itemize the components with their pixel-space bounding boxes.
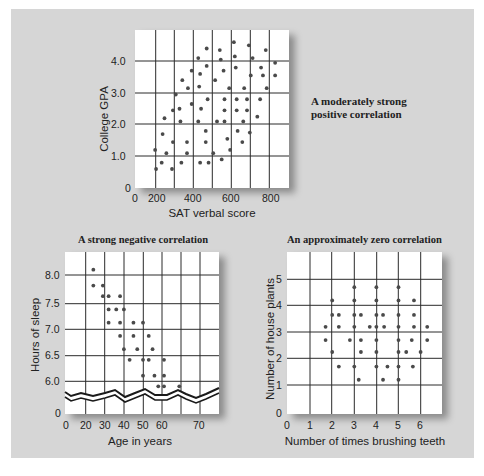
- data-point: [265, 86, 269, 90]
- data-point: [211, 151, 215, 155]
- data-point: [397, 338, 401, 342]
- data-point: [397, 365, 401, 369]
- data-point: [132, 321, 136, 325]
- data-point: [236, 129, 240, 133]
- y-tick-label: 4: [276, 300, 282, 311]
- data-point: [186, 86, 190, 90]
- data-point: [128, 358, 132, 362]
- y-tick-label: 7.5: [45, 298, 60, 309]
- data-point: [352, 313, 356, 317]
- x-tick-label: 600: [222, 193, 240, 204]
- data-point: [324, 325, 328, 329]
- data-point: [381, 378, 385, 382]
- x-tick-label: 400: [184, 193, 202, 204]
- data-point: [412, 313, 416, 317]
- data-point: [412, 325, 416, 329]
- data-point: [162, 358, 166, 362]
- data-point: [330, 299, 334, 303]
- age-sleep-scatter-plot: [65, 252, 219, 414]
- data-point: [225, 137, 229, 141]
- y-axis-label: Hours of sleep: [29, 290, 41, 380]
- data-point: [245, 108, 249, 112]
- data-point: [107, 294, 111, 298]
- teeth-plants-plot-area: [287, 252, 442, 414]
- data-point: [368, 325, 372, 329]
- x-tick-label: 1: [307, 420, 313, 431]
- x-tick-label: 0: [284, 420, 290, 431]
- data-point: [382, 325, 386, 329]
- data-point: [352, 299, 356, 303]
- data-point: [235, 108, 239, 112]
- data-point: [248, 131, 252, 135]
- data-point: [205, 47, 209, 51]
- data-point: [163, 116, 167, 120]
- x-tick-label: 5: [395, 420, 401, 431]
- x-tick-label: 60: [156, 420, 168, 431]
- data-point: [141, 374, 145, 378]
- data-point: [375, 285, 379, 289]
- data-point: [178, 107, 182, 111]
- data-point: [255, 115, 259, 119]
- data-point: [185, 140, 189, 144]
- data-point: [375, 338, 379, 342]
- data-point: [425, 325, 429, 329]
- data-point: [251, 56, 255, 60]
- data-point: [215, 120, 219, 124]
- data-point: [213, 78, 217, 82]
- x-axis-label: Number of times brushing teeth: [280, 435, 450, 447]
- data-point: [101, 294, 105, 298]
- data-point: [196, 56, 200, 60]
- data-point: [425, 338, 429, 342]
- data-point: [218, 48, 222, 52]
- data-point: [352, 365, 356, 369]
- data-point: [375, 313, 379, 317]
- data-point: [234, 66, 238, 70]
- data-point: [419, 350, 423, 354]
- data-point: [241, 120, 245, 124]
- data-point: [359, 313, 363, 317]
- data-point: [162, 384, 166, 388]
- data-point: [132, 334, 136, 338]
- teeth-plants-scatter-plot: [287, 252, 442, 414]
- age-sleep-plot-area: [65, 252, 219, 414]
- x-tick-label: 40: [118, 420, 130, 431]
- data-point: [330, 313, 334, 317]
- data-point: [147, 334, 151, 338]
- data-point: [219, 58, 223, 62]
- data-point: [118, 294, 122, 298]
- data-point: [381, 313, 385, 317]
- data-point: [233, 55, 237, 59]
- data-point: [359, 350, 363, 354]
- x-axis-label: SAT verbal score: [152, 207, 272, 219]
- data-point: [258, 97, 262, 101]
- data-point: [101, 284, 105, 288]
- x-axis-label: Age in years: [90, 435, 190, 447]
- x-tick-label: 30: [99, 420, 111, 431]
- data-point: [337, 313, 341, 317]
- data-point: [397, 350, 401, 354]
- data-point: [174, 93, 178, 97]
- data-point: [375, 299, 379, 303]
- data-point: [107, 321, 111, 325]
- data-point: [412, 299, 416, 303]
- x-tick-label: 200: [148, 193, 166, 204]
- x-tick-label: 3: [351, 420, 357, 431]
- data-point: [359, 338, 363, 342]
- data-point: [114, 308, 118, 312]
- data-point: [397, 325, 401, 329]
- data-point: [337, 325, 341, 329]
- data-point: [122, 347, 126, 351]
- x-tick-label: 0: [132, 193, 138, 204]
- data-point: [324, 338, 328, 342]
- data-point: [259, 66, 263, 70]
- data-point: [223, 97, 227, 101]
- data-point: [118, 334, 122, 338]
- data-point: [411, 365, 415, 369]
- data-point: [185, 151, 189, 155]
- data-point: [375, 325, 379, 329]
- data-point: [397, 378, 401, 382]
- data-point: [232, 40, 236, 44]
- x-tick-label: 800: [262, 193, 280, 204]
- data-point: [190, 102, 194, 106]
- data-point: [261, 74, 265, 78]
